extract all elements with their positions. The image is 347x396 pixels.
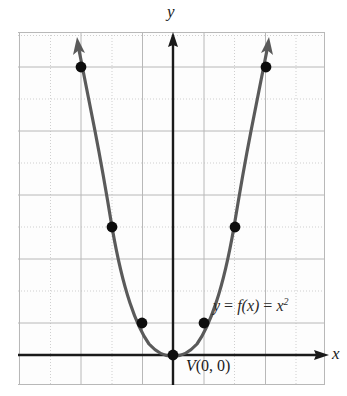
data-point[interactable] bbox=[107, 222, 118, 233]
data-point[interactable] bbox=[199, 318, 210, 329]
graph-canvas bbox=[0, 0, 347, 396]
equation-equals-1: = bbox=[220, 297, 237, 314]
data-point[interactable] bbox=[261, 62, 272, 73]
x-axis-label: x bbox=[332, 344, 340, 364]
data-point[interactable] bbox=[230, 222, 241, 233]
vertex-label: V(0, 0) bbox=[186, 357, 230, 375]
data-point[interactable] bbox=[137, 318, 148, 329]
vertex-coordinates: (0, 0) bbox=[196, 357, 231, 374]
y-axis-label: y bbox=[167, 2, 175, 22]
plot-background bbox=[18, 32, 325, 385]
data-point-vertex[interactable] bbox=[168, 350, 179, 361]
vertex-letter: V bbox=[186, 357, 196, 374]
equation-exponent: 2 bbox=[284, 296, 289, 307]
equation-base: x bbox=[276, 297, 283, 314]
equation-equals-2: = bbox=[259, 297, 276, 314]
equation-function-argument: (x) bbox=[242, 297, 260, 314]
equation-label: y = f(x) = x2 bbox=[213, 296, 289, 315]
data-point[interactable] bbox=[76, 62, 87, 73]
parabola-figure: y x y = f(x) = x2 V(0, 0) bbox=[0, 0, 347, 396]
